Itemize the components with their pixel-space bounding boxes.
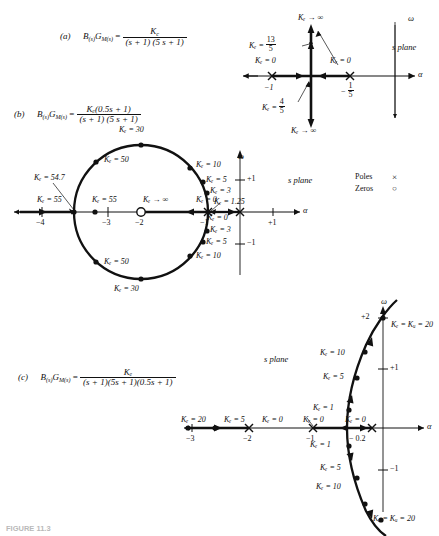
panel-a-label-kc-inf-top: Kₑ → ∞ bbox=[298, 14, 323, 22]
panel-a-label-kc-0-left: Kₑ = 0 bbox=[255, 57, 276, 65]
panel-c-label-kc-0-c: Kₑ = 0 bbox=[345, 416, 366, 424]
panel-b-s-plane: s plane bbox=[288, 176, 312, 185]
panel-b-label-kc-inf: Kₑ → ∞ bbox=[143, 196, 168, 204]
panel-c-axes bbox=[184, 306, 424, 512]
panel-a-lhs-b: B(s) bbox=[83, 31, 95, 41]
panel-b-label-kc-50-upper: Kₑ = 50 bbox=[104, 156, 129, 164]
figure-caption: FIGURE 11.3 bbox=[6, 524, 51, 533]
panel-a-equals: = bbox=[115, 31, 120, 41]
panel-c-label-kc-20-left: Kₑ = 20 bbox=[181, 416, 206, 424]
legend-zeros-label: Zeros bbox=[355, 185, 373, 193]
panel-c-axis-omega: ω bbox=[381, 297, 387, 306]
panel-b-tick-imag-minus1: −1 bbox=[247, 239, 256, 247]
panel-b-label-kc-125: Kₑ = 1.25 bbox=[214, 198, 245, 206]
panel-a-label-kc-0-right: Kₑ = 0 bbox=[330, 57, 351, 65]
panel-b-axes bbox=[14, 150, 300, 275]
panel-c-tick-imag-plus2: +2 bbox=[361, 313, 370, 321]
panel-b-tick-minus3: −3 bbox=[102, 219, 111, 227]
panel-b-label-kc-0-origin: Kₑ = 0 bbox=[207, 214, 228, 222]
panel-b-label-kc-55-right: Kₑ = 55 bbox=[92, 196, 117, 204]
panel-c-tick-minus-0-2: − 0.2 bbox=[349, 435, 366, 443]
panel-a-label-kc-4-5: Kₑ = 45 bbox=[262, 98, 285, 116]
panel-c-label-kc-1-upper: Kₑ = 1 bbox=[313, 404, 334, 412]
panel-b-label-kc-30-top: Kₑ = 30 bbox=[119, 126, 144, 134]
panel-b-label-kc-3-lower: Kₑ = 3 bbox=[210, 226, 231, 234]
panel-c-fraction: Kₑ (s + 1)(5s + 1)(0.5s + 1) bbox=[80, 368, 175, 388]
panel-c-label-kc-0-a: Kₑ = 0 bbox=[262, 416, 283, 424]
panel-b-label-kc-10-lower: Kₑ = 10 bbox=[196, 252, 221, 260]
panel-b-label-kc-3-upper: Kₑ = 3 bbox=[210, 187, 231, 195]
panel-c-label-kc-10-lower: Kₑ = 10 bbox=[316, 483, 341, 491]
panel-b-tick-plus1: +1 bbox=[268, 219, 277, 227]
panel-c-label-kc-5-upper: Kₑ = 5 bbox=[323, 373, 344, 381]
panel-b-lhs-b: B(s) bbox=[37, 109, 49, 119]
panel-b-tag: (b) bbox=[14, 109, 25, 119]
panel-b-label-kc-5-lower: Kₑ = 5 bbox=[206, 238, 227, 246]
panel-c-tick-minus1: −1 bbox=[306, 435, 315, 443]
panel-b-label-kc-0-right: Kₑ = 0 bbox=[196, 196, 217, 204]
panel-c-label-kc-0-b: Kₑ = 0 bbox=[303, 416, 324, 424]
panel-a-tick-minus1: −1 bbox=[264, 84, 273, 92]
panel-b-label-kc-55-left: Kₑ = 55 bbox=[37, 196, 62, 204]
panel-c-tick-imag-minus1: −1 bbox=[390, 465, 399, 473]
panel-c-tick-minus2: −2 bbox=[243, 435, 252, 443]
panel-c-label-kc-10-upper: Kₑ = 10 bbox=[320, 349, 345, 357]
panel-b-label-kc-547: Kₑ = 54.7 bbox=[34, 174, 65, 182]
root-figure: (a) B(s)GM(s) = Kc (s + 1) (5 s + 1) bbox=[0, 0, 439, 536]
panel-b-label-kc-50-lower: Kₑ = 50 bbox=[104, 258, 129, 266]
poles-marker-icon: × bbox=[392, 173, 397, 182]
panel-c-label-kc-ku-top: Kₑ = Kᵤ = 20 bbox=[391, 321, 433, 329]
panel-c-tag: (c) bbox=[18, 372, 28, 382]
panel-c-tick-minus3: −3 bbox=[186, 435, 195, 443]
panel-b-fraction: Kₑ(0.5s + 1) (s + 1) (5 s + 1) bbox=[77, 105, 141, 125]
panel-a-equation: (a) B(s)GM(s) = Kc (s + 1) (5 s + 1) bbox=[60, 27, 187, 48]
panel-a-tick-minus-one-fifth: − 15 bbox=[341, 82, 354, 100]
panel-b-lhs-g: GM(s) bbox=[49, 109, 67, 119]
panel-a-s-plane: s plane bbox=[392, 43, 416, 52]
panel-b-label-kc-10-upper: Kₑ = 10 bbox=[196, 161, 221, 169]
panel-b-tick-minus1: −1 bbox=[200, 219, 209, 227]
panel-b-label-kc-30-bottom: Kₑ = 30 bbox=[114, 285, 139, 293]
panel-b-tick-imag-plus1: +1 bbox=[247, 175, 256, 183]
zeros-marker-icon: ○ bbox=[392, 185, 397, 193]
panel-c-denominator: (s + 1)(5s + 1)(0.5s + 1) bbox=[80, 378, 175, 387]
panel-c-lhs-g: GM(s) bbox=[52, 372, 70, 382]
panel-b-axis-alpha: α bbox=[303, 206, 307, 215]
panel-c-label-kc-5-left: Kₑ = 5 bbox=[224, 416, 245, 424]
panel-c-axis-alpha: α bbox=[427, 422, 431, 431]
panel-a-denominator: (s + 1) (5 s + 1) bbox=[123, 38, 187, 47]
panel-c-label-kc-5-lower: Kₑ = 5 bbox=[320, 464, 341, 472]
panel-a-axis-omega: ω bbox=[408, 14, 414, 23]
panel-c-equation: (c) B(s)GM(s) = Kₑ (s + 1)(5s + 1)(0.5s … bbox=[18, 368, 176, 388]
panel-b-denominator: (s + 1) (5 s + 1) bbox=[77, 115, 141, 124]
panel-b-label-kc-5-upper: Kₑ = 5 bbox=[206, 176, 227, 184]
panel-b-tick-minus4: −4 bbox=[36, 219, 45, 227]
panel-a-tag: (a) bbox=[60, 31, 71, 41]
panel-b-equation: (b) B(s)GM(s) = Kₑ(0.5s + 1) (s + 1) (5 … bbox=[14, 105, 141, 125]
panel-c-equals: = bbox=[73, 372, 78, 382]
panel-c-tick-imag-plus1: +1 bbox=[390, 364, 399, 372]
panel-a-label-kc-inf-bottom: Kₑ → ∞ bbox=[291, 127, 316, 135]
panel-a-label-kc-13-5: Kₑ = 135 bbox=[249, 36, 276, 54]
panel-c-lhs-b: B(s) bbox=[41, 372, 53, 382]
panel-b-tick-minus2: −2 bbox=[135, 219, 144, 227]
panel-b-equals: = bbox=[69, 109, 74, 119]
panel-c-s-plane: s plane bbox=[264, 355, 288, 364]
panel-a-fraction: Kc (s + 1) (5 s + 1) bbox=[123, 27, 187, 48]
figure-vector-layer bbox=[0, 0, 439, 536]
panel-c-label-kc-ku-bottom: Kₑ = Kᵤ = 20 bbox=[373, 515, 415, 523]
panel-a-lhs-g: GM(s) bbox=[95, 31, 113, 41]
panel-b-axis-omega: ω bbox=[238, 152, 244, 161]
legend-poles-label: Poles bbox=[355, 173, 372, 181]
panel-a-axis-alpha: α bbox=[418, 70, 422, 79]
